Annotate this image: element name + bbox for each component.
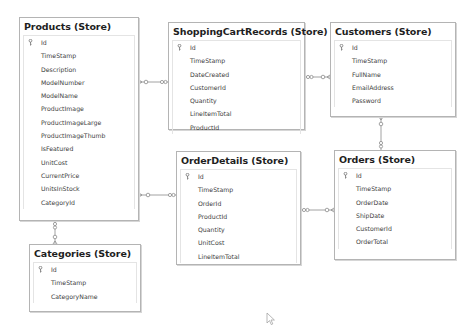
entity-title: Categories (Store) <box>30 245 140 262</box>
field-row[interactable]: CategoryName <box>34 290 136 303</box>
entity-title: Products (Store) <box>20 18 138 35</box>
connector-products-shoppingcart[interactable] <box>139 80 168 84</box>
field-row[interactable]: TimeStamp <box>34 276 136 289</box>
key-icon <box>28 39 33 46</box>
entity-products[interactable]: Products (Store) Id TimeStamp Descriptio… <box>19 17 139 221</box>
field-row[interactable]: UnitsInStock <box>24 182 134 195</box>
field-row[interactable]: LineItemTotal <box>181 250 296 263</box>
field-row[interactable]: ProductId <box>173 121 300 134</box>
field-row[interactable]: TimeStamp <box>173 54 300 67</box>
entity-categories[interactable]: Categories (Store) Id TimeStamp Category… <box>29 244 141 312</box>
field-row[interactable]: CustomerId <box>173 81 300 94</box>
field-row-primary-key[interactable]: Id <box>34 263 136 276</box>
field-row[interactable]: ProductImageLarge <box>24 116 134 129</box>
entity-title: ShoppingCartRecords (Store) <box>169 23 304 40</box>
entity-order-details[interactable]: OrderDetails (Store) Id TimeStamp OrderI… <box>176 151 301 265</box>
field-row[interactable]: EmailAddress <box>335 81 451 94</box>
connector-shoppingcart-customers[interactable] <box>305 75 330 79</box>
field-row[interactable]: OrderId <box>181 197 296 210</box>
field-list: Id TimeStamp OrderDate ShipDate Customer… <box>338 168 452 249</box>
mouse-cursor-icon <box>266 312 276 326</box>
field-row-primary-key[interactable]: Id <box>181 170 296 183</box>
entity-title: Customers (Store) <box>331 23 455 40</box>
field-row[interactable]: CategoryId <box>24 196 134 209</box>
field-row[interactable]: Description <box>24 63 134 76</box>
field-name: Id <box>41 39 47 46</box>
field-name: Id <box>198 173 204 180</box>
field-row[interactable]: TimeStamp <box>181 183 296 196</box>
field-row[interactable]: OrderDate <box>339 196 451 209</box>
field-row-primary-key[interactable]: Id <box>24 36 134 49</box>
key-icon <box>177 44 182 51</box>
field-row[interactable]: FullName <box>335 68 451 81</box>
connector-categories-products[interactable] <box>53 221 57 244</box>
field-row[interactable]: ShipDate <box>339 209 451 222</box>
field-row[interactable]: CustomerId <box>339 222 451 235</box>
field-row[interactable]: DateCreated <box>173 68 300 81</box>
entity-title: OrderDetails (Store) <box>177 152 300 169</box>
key-icon <box>38 266 43 273</box>
field-row[interactable]: TimeStamp <box>335 54 451 67</box>
field-name: Id <box>356 172 362 179</box>
entity-orders[interactable]: Orders (Store) Id TimeStamp OrderDate Sh… <box>334 150 456 260</box>
connector-customers-orders[interactable] <box>379 117 383 150</box>
field-row[interactable]: TimeStamp <box>339 182 451 195</box>
field-name: Id <box>352 44 358 51</box>
field-row[interactable]: OrderTotal <box>339 235 451 248</box>
entity-title: Orders (Store) <box>335 151 455 168</box>
field-name: Id <box>190 44 196 51</box>
field-name: Id <box>51 266 57 273</box>
connector-orderdetails-orders[interactable] <box>301 208 334 212</box>
connector-products-orderdetails[interactable] <box>139 193 176 197</box>
key-icon <box>339 44 344 51</box>
field-row[interactable]: TimeStamp <box>24 49 134 62</box>
field-row[interactable]: ProductImage <box>24 102 134 115</box>
field-row[interactable]: Quantity <box>173 94 300 107</box>
field-list: Id TimeStamp FullName EmailAddress Passw… <box>334 40 452 107</box>
field-row[interactable]: UnitCost <box>181 236 296 249</box>
key-icon <box>185 173 190 180</box>
entity-customers[interactable]: Customers (Store) Id TimeStamp FullName … <box>330 22 456 117</box>
field-row[interactable]: LineItemTotal <box>173 107 300 120</box>
field-row[interactable]: ModelName <box>24 89 134 102</box>
field-row-primary-key[interactable]: Id <box>339 169 451 182</box>
field-list: Id TimeStamp DateCreated CustomerId Quan… <box>172 40 301 134</box>
field-row[interactable]: ProductImageThumb <box>24 129 134 142</box>
field-row[interactable]: CurrentPrice <box>24 169 134 182</box>
field-list: Id TimeStamp Description ModelNumber Mod… <box>23 35 135 209</box>
field-list: Id TimeStamp CategoryName <box>33 262 137 303</box>
field-row[interactable]: Password <box>335 94 451 107</box>
field-row[interactable]: ModelNumber <box>24 76 134 89</box>
field-row[interactable]: IsFeatured <box>24 142 134 155</box>
field-row[interactable]: UnitCost <box>24 156 134 169</box>
key-icon <box>343 172 348 179</box>
field-row-primary-key[interactable]: Id <box>335 41 451 54</box>
field-row[interactable]: Quantity <box>181 223 296 236</box>
field-row-primary-key[interactable]: Id <box>173 41 300 54</box>
field-row[interactable]: ProductId <box>181 210 296 223</box>
field-list: Id TimeStamp OrderId ProductId Quantity … <box>180 169 297 263</box>
entity-shopping-cart-records[interactable]: ShoppingCartRecords (Store) Id TimeStamp… <box>168 22 305 130</box>
